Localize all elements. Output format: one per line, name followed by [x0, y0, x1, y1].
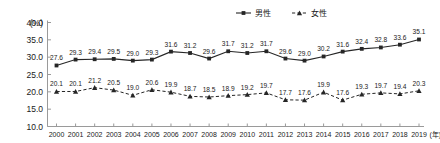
x-axis-unit-label: (年) [430, 130, 440, 139]
data-label-female: 18.5 [203, 86, 216, 93]
data-label-female: 19.0 [126, 84, 139, 91]
data-label-male: 33.6 [393, 34, 406, 41]
chart-canvas: (%)10.015.020.025.030.035.040.0200020012… [0, 0, 440, 143]
data-label-female: 19.2 [241, 84, 254, 91]
data-label-male: 29.3 [69, 49, 82, 56]
data-point-marker-male [398, 43, 402, 47]
data-point-marker-male [207, 57, 211, 61]
data-label-female: 21.2 [88, 77, 101, 84]
data-label-male: 29.3 [145, 49, 158, 56]
y-axis-tick-label: 40.0 [26, 18, 43, 28]
data-point-marker-male [131, 59, 135, 63]
data-label-female: 20.1 [69, 80, 82, 87]
x-axis-tick-label: 2015 [335, 131, 351, 138]
data-point-marker-male [74, 58, 78, 62]
data-point-marker-male [264, 49, 268, 53]
x-axis-tick-label: 2004 [125, 131, 141, 138]
data-label-male: 31.6 [165, 41, 178, 48]
data-label-female: 18.9 [222, 85, 235, 92]
data-label-male: 31.6 [336, 41, 349, 48]
data-point-marker-female [321, 90, 326, 95]
x-axis-tick-label: 2008 [201, 131, 217, 138]
data-label-female: 20.1 [50, 80, 63, 87]
x-axis-tick-label: 2017 [373, 131, 389, 138]
x-axis-tick-label: 2006 [163, 131, 179, 138]
data-label-male: 29.6 [203, 48, 216, 55]
data-point-marker-female [340, 98, 345, 103]
data-label-male: 31.7 [260, 40, 273, 47]
data-label-female: 19.7 [374, 82, 387, 89]
x-axis-tick-label: 2013 [297, 131, 313, 138]
y-axis-tick-label: 25.0 [26, 70, 43, 80]
legend-marker-male [242, 11, 246, 15]
data-point-marker-male [169, 50, 173, 54]
data-label-male: 30.2 [317, 45, 330, 52]
data-point-marker-male [322, 55, 326, 59]
x-axis-tick-label: 2018 [392, 131, 408, 138]
data-label-female: 17.6 [298, 89, 311, 96]
data-label-female: 19.7 [260, 82, 273, 89]
data-label-male: 29.0 [126, 50, 139, 57]
data-point-marker-male [188, 51, 192, 55]
data-point-marker-male [360, 47, 364, 51]
data-label-female: 18.7 [184, 85, 197, 92]
y-axis-tick-label: 20.0 [26, 87, 43, 97]
data-label-male: 29.6 [279, 48, 292, 55]
data-label-male: 31.7 [222, 40, 235, 47]
legend-label-male: 男性 [255, 8, 271, 18]
data-label-male: 32.8 [374, 36, 387, 43]
data-point-marker-male [226, 49, 230, 53]
x-axis-tick-label: 2000 [49, 131, 65, 138]
legend-label-female: 女性 [311, 8, 327, 18]
data-label-male: 29.5 [107, 48, 120, 55]
data-point-marker-male [341, 50, 345, 54]
y-axis-tick-label: 10.0 [26, 122, 43, 132]
data-label-male: 32.4 [355, 38, 368, 45]
data-point-marker-male [150, 58, 154, 62]
x-axis-tick-label: 2014 [316, 131, 332, 138]
x-axis-tick-label: 2009 [220, 131, 236, 138]
data-label-male: 31.2 [241, 42, 254, 49]
data-point-marker-female [226, 93, 231, 98]
data-label-female: 19.9 [317, 81, 330, 88]
data-label-female: 17.6 [336, 89, 349, 96]
data-point-marker-male [284, 57, 288, 61]
data-label-male: 29.0 [298, 50, 311, 57]
data-label-female: 20.3 [413, 80, 426, 87]
data-label-male: 35.1 [413, 28, 426, 35]
line-chart: (%)10.015.020.025.030.035.040.0200020012… [0, 0, 440, 143]
data-label-female: 20.6 [145, 79, 158, 86]
x-axis-tick-label: 2005 [144, 131, 160, 138]
data-label-male: 27.6 [50, 54, 63, 61]
y-axis-tick-label: 35.0 [26, 35, 43, 45]
data-point-marker-male [417, 38, 421, 42]
x-axis-tick-label: 2019 [411, 131, 427, 138]
x-axis-tick-label: 2003 [106, 131, 122, 138]
data-point-marker-male [379, 46, 383, 50]
x-axis-tick-label: 2011 [259, 131, 274, 138]
data-label-female: 19.9 [165, 81, 178, 88]
data-label-female: 17.7 [279, 89, 292, 96]
x-axis-tick-label: 2001 [68, 131, 84, 138]
data-label-male: 29.4 [88, 48, 101, 55]
x-axis-tick-label: 2007 [182, 131, 198, 138]
x-axis-tick-label: 2012 [278, 131, 294, 138]
data-label-female: 19.4 [393, 83, 406, 90]
x-axis-tick-label: 2010 [240, 131, 256, 138]
data-label-female: 19.3 [355, 83, 368, 90]
data-point-marker-male [245, 51, 249, 55]
data-point-marker-male [93, 57, 97, 61]
x-axis-tick-label: 2016 [354, 131, 370, 138]
data-point-marker-male [55, 64, 59, 68]
y-axis-tick-label: 30.0 [26, 52, 43, 62]
data-point-marker-male [112, 57, 116, 61]
x-axis-tick-label: 2002 [87, 131, 103, 138]
data-label-male: 31.2 [184, 42, 197, 49]
data-label-female: 20.5 [107, 79, 120, 86]
y-axis-tick-label: 15.0 [26, 104, 43, 114]
data-point-marker-male [303, 59, 307, 63]
